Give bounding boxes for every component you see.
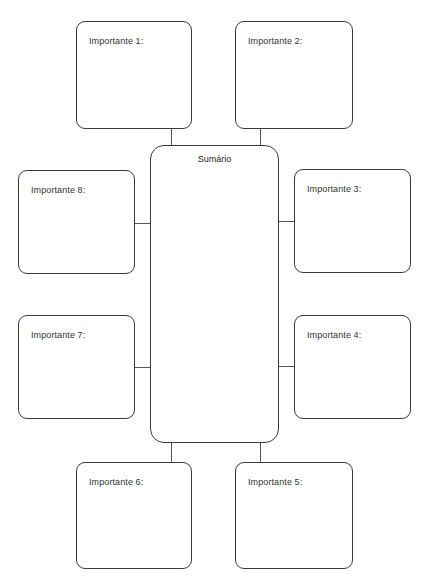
important-box-5[interactable]: Importante 5: — [235, 462, 353, 569]
important-box-1[interactable]: Importante 1: — [76, 21, 192, 129]
summary-title: Sumário — [151, 154, 278, 164]
connector-5 — [260, 442, 261, 463]
important-label-1: Importante 1: — [89, 36, 143, 46]
connector-4 — [279, 366, 295, 367]
important-box-6[interactable]: Importante 6: — [76, 462, 192, 569]
connector-1 — [171, 128, 172, 145]
important-box-8[interactable]: Importante 8: — [18, 170, 135, 274]
important-label-3: Importante 3: — [307, 184, 361, 194]
connector-7 — [134, 367, 150, 368]
important-box-3[interactable]: Importante 3: — [294, 169, 411, 273]
connector-2 — [260, 128, 261, 145]
important-label-6: Importante 6: — [89, 477, 143, 487]
connector-8 — [134, 223, 150, 224]
important-label-4: Importante 4: — [307, 330, 361, 340]
important-box-7[interactable]: Importante 7: — [18, 315, 135, 419]
connector-3 — [279, 221, 295, 222]
summary-box[interactable]: Sumário — [150, 145, 279, 443]
connector-6 — [171, 442, 172, 463]
important-label-2: Importante 2: — [248, 36, 302, 46]
important-label-5: Importante 5: — [248, 477, 302, 487]
important-label-7: Importante 7: — [31, 330, 85, 340]
important-box-2[interactable]: Importante 2: — [235, 21, 353, 129]
important-box-4[interactable]: Importante 4: — [294, 315, 411, 419]
summary-diagram: Sumário Importante 1: Importante 2: Impo… — [0, 0, 428, 586]
important-label-8: Importante 8: — [31, 185, 85, 195]
